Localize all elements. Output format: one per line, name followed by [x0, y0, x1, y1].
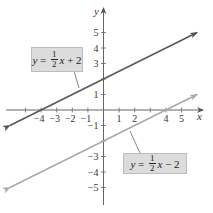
y-tick-label: 1 [94, 89, 99, 100]
coordinate-plane: −4−3−2−112455431−1−3−4−5 x y [0, 0, 213, 213]
x-tick-label: 5 [179, 113, 184, 124]
y-tick-label: −3 [88, 151, 99, 162]
eq1-rest: + 2 [64, 54, 81, 66]
label1-pointer [74, 71, 79, 88]
y-tick-label: 5 [94, 27, 99, 38]
y-tick-label: −1 [88, 120, 99, 131]
eq1-denominator: 2 [51, 60, 58, 69]
x-tick-label: −2 [65, 113, 76, 124]
x-tick-label: 4 [163, 113, 168, 124]
x-tick-label: −3 [49, 113, 60, 124]
y-tick-label: −5 [88, 182, 99, 193]
eq1-equals: = [37, 54, 49, 66]
equation-label-line1: y = 1 2 x + 2 [31, 47, 83, 72]
eq2-rest: − 2 [162, 158, 179, 170]
eq1-fraction: 1 2 [51, 50, 58, 69]
x-tick-label: 2 [132, 113, 137, 124]
y-tick-label: −4 [88, 167, 99, 178]
y-tick-label: 3 [94, 58, 99, 69]
x-axis-name: x [196, 110, 202, 122]
eq2-equals: = [135, 158, 147, 170]
y-tick-label: 4 [94, 43, 99, 54]
equation-label-line2: y = 1 2 x − 2 [123, 153, 187, 174]
y-axis-name: y [93, 5, 99, 17]
label2-pointer [130, 131, 140, 153]
eq2-denominator: 2 [149, 164, 156, 173]
x-tick-label: −4 [34, 113, 45, 124]
eq2-fraction: 1 2 [149, 154, 156, 173]
x-tick-label: 1 [117, 113, 122, 124]
